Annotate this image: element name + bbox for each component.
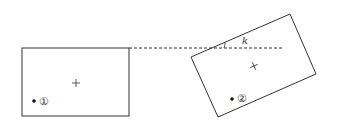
center-mark-2 (249, 61, 259, 71)
rotation-diagram: ① k ② (0, 0, 337, 128)
marker-label-1: ① (39, 95, 49, 108)
center-mark-1 (72, 79, 80, 87)
angle-label: k (242, 35, 248, 46)
marker-label-2: ② (237, 92, 247, 105)
point-dot-2 (230, 97, 234, 101)
point-dot-1 (32, 99, 36, 103)
